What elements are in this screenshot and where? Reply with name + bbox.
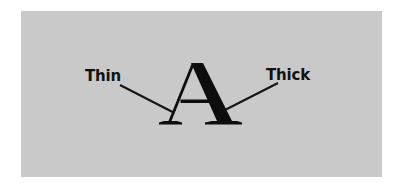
diagram-panel: Thin Thick (21, 11, 382, 177)
typography-diagram: Thin Thick (21, 11, 382, 177)
right-foot-serif (205, 121, 242, 125)
thick-diagonal-stroke (191, 63, 232, 121)
thin-leader-line (120, 85, 174, 113)
thick-leader-line (223, 83, 278, 111)
letter-a-glyph (159, 63, 242, 125)
thin-label: Thin (85, 67, 121, 85)
crossbar-stroke (181, 100, 212, 104)
figure-root: Thin Thick (0, 0, 400, 192)
left-foot-serif (159, 121, 182, 125)
thick-label: Thick (266, 66, 311, 84)
